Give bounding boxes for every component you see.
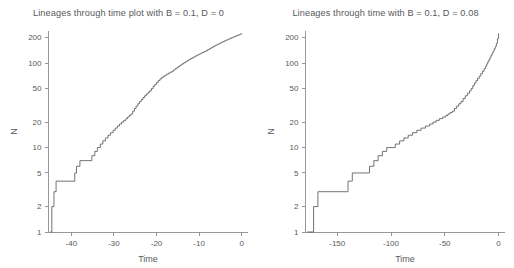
x-tick-label: 0 [239, 239, 244, 248]
y-tick-label: 1 [294, 228, 299, 237]
y-tick-label: 5 [37, 169, 42, 178]
x-axis-title: Time [138, 254, 158, 264]
y-tick-label: 50 [33, 84, 42, 93]
lineage-curve [307, 33, 498, 232]
y-tick-label: 20 [290, 118, 299, 127]
plot-canvas-left: 125102050100200-40-30-20-100TimeN [0, 0, 257, 268]
y-tick-label: 10 [290, 143, 299, 152]
x-tick-label: -100 [383, 239, 400, 248]
y-axis-title: N [266, 128, 276, 135]
plot-panel-right: Lineages through time with B = 0.1, D = … [257, 0, 514, 268]
y-tick-label: 100 [285, 59, 299, 68]
x-tick-label: -50 [439, 239, 451, 248]
x-tick-label: -20 [151, 239, 163, 248]
y-tick-label: 100 [28, 59, 42, 68]
y-tick-label: 50 [290, 84, 299, 93]
y-tick-label: 2 [37, 202, 42, 211]
y-tick-label: 1 [37, 228, 42, 237]
y-tick-label: 200 [28, 33, 42, 42]
x-tick-label: 0 [496, 239, 501, 248]
y-tick-label: 5 [294, 169, 299, 178]
x-axis-title: Time [395, 254, 415, 264]
x-tick-label: -30 [108, 239, 120, 248]
y-axis-title: N [9, 128, 19, 135]
y-tick-label: 2 [294, 202, 299, 211]
y-tick-label: 200 [285, 33, 299, 42]
x-tick-label: -10 [193, 239, 205, 248]
plot-canvas-right: 125102050100200-150-100-500TimeN [257, 0, 514, 268]
lineages-through-time-figure: Lineages through time plot with B = 0.1,… [0, 0, 514, 268]
y-tick-label: 20 [33, 118, 42, 127]
x-tick-label: -150 [329, 239, 346, 248]
x-tick-label: -40 [66, 239, 78, 248]
y-tick-label: 10 [33, 143, 42, 152]
lineage-curve [50, 33, 241, 232]
plot-panel-left: Lineages through time plot with B = 0.1,… [0, 0, 257, 268]
